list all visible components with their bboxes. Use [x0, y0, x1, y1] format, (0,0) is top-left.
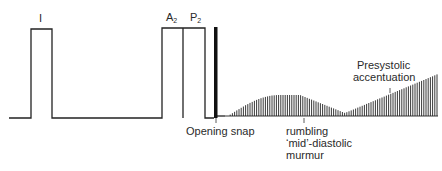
s1-label: I [39, 12, 42, 24]
opening-snap-bar [214, 27, 218, 118]
a2-label: A2 [166, 11, 177, 27]
presystolic-label: Presystolic accentuation [353, 59, 415, 83]
murmur-label: rumbling ‘mid’-diastolic murmur [286, 125, 352, 161]
p2-label: P2 [190, 11, 201, 27]
phonocardiogram-trace [0, 0, 442, 171]
opening-snap-label: Opening snap [186, 125, 255, 137]
